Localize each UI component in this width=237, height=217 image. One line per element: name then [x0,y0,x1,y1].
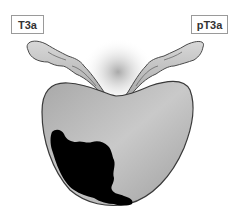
stage-label-t3a: T3a [11,15,44,34]
stage-label-t3a-text: T3a [18,19,37,31]
prostate-diagram: T3a pT3a [0,0,237,217]
stage-label-pt3a-text: pT3a [197,19,223,31]
stage-label-pt3a: pT3a [191,15,228,34]
